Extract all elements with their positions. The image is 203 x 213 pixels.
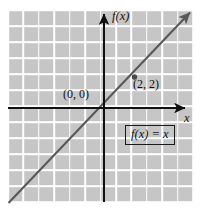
point-label-2-2: (2, 2) bbox=[133, 78, 159, 90]
equation-annotation-box: f(x) = x bbox=[125, 125, 175, 145]
y-axis-label: f(x) bbox=[112, 10, 129, 23]
origin-point-label: (0, 0) bbox=[63, 88, 89, 100]
graph-drawing-layer bbox=[0, 0, 203, 213]
x-axis-label: x bbox=[184, 112, 190, 125]
function-graph-figure: f(x) x (0, 0) (2, 2) f(x) = x bbox=[0, 0, 203, 213]
